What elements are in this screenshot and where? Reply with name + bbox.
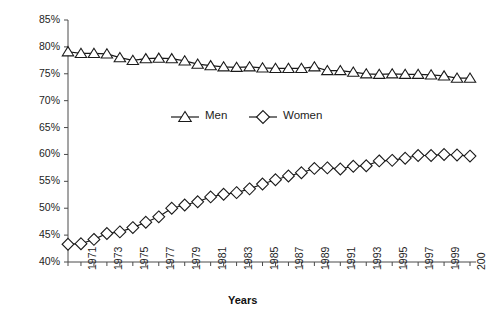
legend-label-men: Men: [205, 109, 227, 121]
y-axis-tick-label: 80%: [24, 40, 60, 52]
data-point-marker-women: [308, 163, 320, 175]
y-axis-tick-label: 40%: [24, 255, 60, 267]
data-point-marker-women: [244, 183, 256, 195]
data-point-marker-women: [62, 238, 74, 250]
x-axis-title: Years: [228, 294, 257, 306]
data-point-marker-women: [166, 202, 178, 214]
data-point-marker-women: [464, 150, 476, 162]
data-point-marker-women: [192, 196, 204, 208]
data-point-marker-women: [179, 199, 191, 211]
x-axis-tick-label: 1977: [164, 247, 176, 270]
x-axis-tick-label: 1995: [397, 247, 409, 270]
data-point-marker-women: [360, 160, 372, 172]
y-axis-tick-label: 50%: [24, 201, 60, 213]
data-point-marker-women: [412, 150, 424, 162]
data-point-marker-men: [153, 53, 164, 62]
x-axis-tick-label: 1979: [190, 247, 202, 270]
data-point-marker-women: [257, 178, 269, 190]
data-point-marker-women: [321, 162, 333, 174]
data-point-marker-women: [140, 216, 152, 228]
data-point-marker-women: [296, 167, 308, 179]
y-axis-tick-label: 85%: [24, 13, 60, 25]
data-point-marker-women: [425, 150, 437, 162]
data-point-marker-women: [127, 222, 139, 234]
data-point-marker-women: [114, 226, 126, 238]
data-point-marker-women: [386, 154, 398, 166]
data-point-marker-women: [373, 155, 385, 167]
y-axis-tick-label: 75%: [24, 67, 60, 79]
legend-marker-diamond: [257, 111, 270, 124]
data-point-marker-men: [62, 47, 73, 56]
x-axis-tick-label: 1993: [371, 247, 383, 270]
x-axis-tick-label: 1985: [268, 247, 280, 270]
data-point-marker-men: [114, 53, 125, 62]
chart-container: 85%80%75%70%65%60%55%50%45%40%1971197319…: [0, 0, 497, 318]
data-point-marker-women: [218, 188, 230, 200]
x-axis-tick-label: 1989: [319, 247, 331, 270]
data-point-marker-women: [283, 170, 295, 182]
y-axis-tick-label: 60%: [24, 147, 60, 159]
legend-entry: [171, 111, 199, 121]
y-axis-tick-label: 70%: [24, 94, 60, 106]
y-axis-tick-label: 55%: [24, 174, 60, 186]
data-point-marker-women: [153, 211, 165, 223]
data-point-marker-women: [270, 174, 282, 186]
data-point-marker-men: [309, 62, 320, 71]
x-axis-tick-label: 1997: [423, 247, 435, 270]
data-point-marker-women: [451, 149, 463, 161]
y-axis-tick-label: 45%: [24, 228, 60, 240]
data-point-marker-women: [101, 228, 113, 240]
data-point-marker-women: [205, 191, 217, 203]
data-point-marker-women: [88, 234, 100, 246]
data-point-marker-women: [347, 160, 359, 172]
data-point-marker-women: [231, 187, 243, 199]
data-point-marker-women: [334, 163, 346, 175]
legend-label-women: Women: [283, 109, 322, 121]
x-axis-tick-label: 1991: [345, 247, 357, 270]
y-axis-tick-label: 65%: [24, 121, 60, 133]
x-axis-tick-label: 1971: [86, 247, 98, 270]
data-point-marker-men: [386, 69, 397, 78]
x-axis-tick-label: 1999: [449, 247, 461, 270]
chart-plot-area: [0, 0, 497, 318]
x-axis-tick-label: 1981: [216, 247, 228, 270]
data-point-marker-women: [438, 149, 450, 161]
x-axis-tick-label: 1973: [112, 247, 124, 270]
x-axis-tick-label: 1975: [138, 247, 150, 270]
data-point-marker-men: [244, 62, 255, 71]
x-axis-tick-label: 1983: [242, 247, 254, 270]
data-point-marker-women: [399, 152, 411, 164]
legend-entry: [249, 111, 277, 124]
x-axis-tick-label: 200: [475, 252, 487, 270]
x-axis-tick-label: 1987: [293, 247, 305, 270]
